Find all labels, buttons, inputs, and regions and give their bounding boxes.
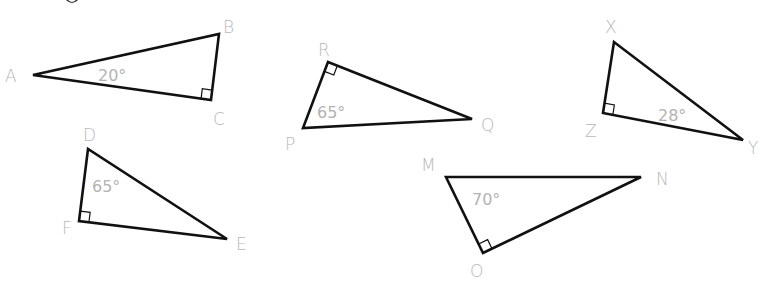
cropped-text-fragment <box>66 0 78 3</box>
vertex-label-x: X <box>605 17 617 37</box>
vertex-label-z: Z <box>585 121 597 141</box>
vertex-label-n: N <box>656 169 669 189</box>
vertex-label-y: Y <box>748 138 758 158</box>
triangle-diagram: ABC20°RQP65°XZY28°DFE65°MNO70° <box>0 0 760 281</box>
vertex-label-c: C <box>213 109 225 129</box>
triangle-abc: ABC20° <box>5 17 234 129</box>
vertex-label-r: R <box>318 40 330 60</box>
vertex-label-p: P <box>285 134 295 154</box>
triangle-outline <box>446 177 641 253</box>
triangle-def: DFE65° <box>62 125 247 254</box>
triangle-outline <box>603 42 743 140</box>
angle-label: 65° <box>92 177 120 196</box>
angle-label: 70° <box>472 190 500 209</box>
angle-label: 28° <box>658 106 686 125</box>
vertex-label-q: Q <box>481 115 494 135</box>
triangle-pqr: RQP65° <box>285 40 494 154</box>
triangle-xyz: XZY28° <box>585 17 758 158</box>
vertex-label-d: D <box>83 125 96 145</box>
angle-label: 20° <box>98 66 126 85</box>
vertex-label-o: O <box>470 261 483 281</box>
triangle-mno: MNO70° <box>421 155 669 281</box>
diagram-canvas: ABC20°RQP65°XZY28°DFE65°MNO70° <box>0 0 760 281</box>
vertex-label-m: M <box>421 155 436 175</box>
angle-label: 65° <box>317 103 345 122</box>
vertex-label-f: F <box>62 218 72 238</box>
vertex-label-b: B <box>223 17 234 37</box>
vertex-label-a: A <box>5 66 17 86</box>
vertex-label-e: E <box>236 234 247 254</box>
